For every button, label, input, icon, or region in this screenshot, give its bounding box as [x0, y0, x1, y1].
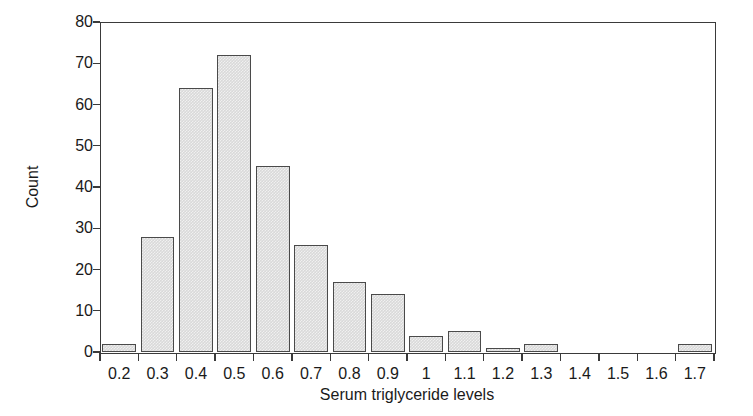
bar-series [100, 22, 714, 352]
x-axis-tick-mark [176, 353, 177, 361]
x-axis-tick-mark [560, 353, 561, 361]
x-axis-tick-label: 0.4 [185, 365, 207, 383]
x-axis-tick-mark [598, 353, 599, 361]
x-axis-tick-label: 1.5 [607, 365, 629, 383]
x-axis-tick-label: 1.4 [569, 365, 591, 383]
x-axis-tick-mark [406, 353, 407, 361]
x-axis-tick-label: 0.6 [262, 365, 284, 383]
histogram-bar [179, 88, 213, 352]
x-axis-tick-label: 1.3 [530, 365, 552, 383]
x-axis-tick-label: 1 [422, 365, 431, 383]
x-axis-tick-mark [637, 353, 638, 361]
x-axis-tick-label: 0.2 [108, 365, 130, 383]
histogram-bar [141, 237, 175, 353]
x-axis-tick-mark [291, 353, 292, 361]
y-axis-tick-mark [93, 63, 100, 64]
x-axis-title: Serum triglyceride levels [100, 386, 714, 404]
y-axis-tick-mark [93, 145, 100, 146]
histogram-bar [333, 282, 367, 352]
y-axis-title: Count [22, 22, 44, 352]
histogram-bar [409, 336, 443, 353]
histogram-figure: 01020304050607080 Count 0.20.30.40.50.60… [0, 0, 753, 416]
histogram-bar [678, 344, 712, 352]
y-axis-tick-mark [93, 21, 100, 22]
y-axis-tick-mark [93, 104, 100, 105]
x-axis-tick-mark [675, 353, 676, 361]
x-axis-tick-mark [214, 353, 215, 361]
x-axis-tick-mark [483, 353, 484, 361]
x-axis-tick-label: 0.9 [377, 365, 399, 383]
x-axis-tick-mark [253, 353, 254, 361]
histogram-bar [371, 294, 405, 352]
y-axis-tick-mark [93, 310, 100, 311]
x-axis-tick-label: 0.3 [146, 365, 168, 383]
histogram-bar [256, 166, 290, 352]
x-axis-tick-mark [138, 353, 139, 361]
x-axis-tick-label: 0.5 [223, 365, 245, 383]
x-axis-tick-mark [99, 353, 100, 361]
y-axis-tick-mark [93, 228, 100, 229]
x-axis-tick-mark [445, 353, 446, 361]
y-axis-tick-mark [93, 269, 100, 270]
x-axis-tick-label: 1.2 [492, 365, 514, 383]
x-axis-tick-mark [368, 353, 369, 361]
histogram-bar [448, 331, 482, 352]
x-axis-tick-label: 0.8 [338, 365, 360, 383]
x-axis-tick-label: 1.6 [645, 365, 667, 383]
y-axis: 01020304050607080 [0, 0, 100, 416]
x-axis-tick-label: 1.7 [684, 365, 706, 383]
histogram-bar [486, 348, 520, 352]
x-axis-tick-mark [330, 353, 331, 361]
histogram-bar [294, 245, 328, 352]
x-axis-tick-mark [521, 353, 522, 361]
histogram-bar [102, 344, 136, 352]
x-axis-tick-label: 0.7 [300, 365, 322, 383]
histogram-bar [217, 55, 251, 352]
histogram-bar [524, 344, 558, 352]
x-axis-tick-mark [713, 353, 714, 361]
x-axis-tick-label: 1.1 [453, 365, 475, 383]
y-axis-tick-mark [93, 186, 100, 187]
